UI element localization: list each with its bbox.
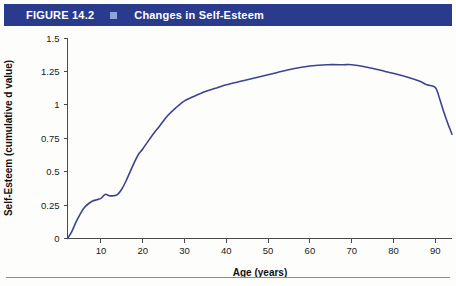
- x-tick-label: 10: [96, 245, 107, 256]
- x-tick-label: 80: [388, 245, 399, 256]
- y-tick-label: 0.5: [46, 166, 59, 177]
- y-axis-tick-labels: 00.250.50.7511.251.5: [41, 33, 60, 245]
- figure-header-band: FIGURE 14.2 Changes in Self-Esteem: [4, 4, 452, 26]
- y-tick-label: 1.5: [46, 33, 59, 44]
- y-axis-title: Self-Esteem (cumulative d value): [3, 60, 14, 216]
- y-tick-label: 0.25: [41, 200, 60, 211]
- y-tick-label: 0.75: [41, 133, 60, 144]
- x-tick-label: 40: [221, 245, 232, 256]
- figure-number-label: FIGURE 14.2: [26, 9, 94, 21]
- x-tick-label: 60: [305, 245, 316, 256]
- x-tick-label: 50: [263, 245, 274, 256]
- x-axis-ticks: [101, 239, 435, 243]
- y-tick-label: 1: [54, 99, 59, 110]
- chart-plot-area: 00.250.50.7511.251.5 102030405060708090 …: [0, 26, 456, 286]
- y-axis-ticks: [64, 38, 68, 239]
- x-tick-label: 90: [430, 245, 441, 256]
- x-tick-label: 70: [346, 245, 357, 256]
- x-axis-tick-labels: 102030405060708090: [96, 245, 441, 256]
- y-tick-label: 1.25: [41, 66, 60, 77]
- x-axis: 102030405060708090: [68, 239, 453, 256]
- square-bullet-icon: [110, 12, 117, 19]
- footer-divider: [6, 277, 450, 278]
- line-chart: 00.250.50.7511.251.5 102030405060708090 …: [0, 26, 456, 286]
- x-tick-label: 30: [179, 245, 190, 256]
- figure-container: FIGURE 14.2 Changes in Self-Esteem 00.25…: [0, 0, 456, 286]
- figure-title-label: Changes in Self-Esteem: [134, 9, 264, 21]
- self-esteem-trend-line: [68, 65, 453, 239]
- x-tick-label: 20: [137, 245, 148, 256]
- y-tick-label: 0: [54, 233, 59, 244]
- y-axis: 00.250.50.7511.251.5: [41, 33, 68, 245]
